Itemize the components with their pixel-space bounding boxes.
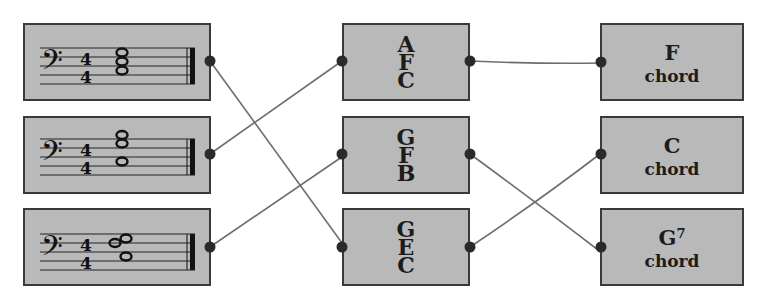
note-letter: B xyxy=(397,164,416,182)
connector-dot-staff-2[interactable] xyxy=(205,149,216,160)
notes-box-gfb[interactable]: G F B xyxy=(342,116,470,194)
connector-dot-staff-1[interactable] xyxy=(205,56,216,67)
staff-box-1[interactable]: 𝄢 4 4 xyxy=(23,23,211,101)
connector-dot-g7-chord[interactable] xyxy=(596,242,607,253)
connector-dot-gec-left[interactable] xyxy=(337,242,348,253)
wire-gec-to-c-chord xyxy=(470,154,600,247)
whole-notes xyxy=(117,49,128,75)
wire-staff2-to-afc xyxy=(210,61,342,154)
connector-dot-afc-left[interactable] xyxy=(337,56,348,67)
note-letter: C xyxy=(397,71,415,89)
whole-notes xyxy=(110,235,132,261)
connector-dot-gfb-left[interactable] xyxy=(337,149,348,160)
wire-afc-to-f-chord xyxy=(470,61,602,63)
svg-text:4: 4 xyxy=(80,158,92,178)
notes-box-gec[interactable]: G E C xyxy=(342,208,470,286)
wire-staff3-to-gfb xyxy=(210,150,352,247)
bass-clef-icon: 𝄢 xyxy=(41,229,63,269)
svg-text:4: 4 xyxy=(80,49,92,69)
svg-text:4: 4 xyxy=(80,235,92,255)
svg-text:4: 4 xyxy=(80,140,92,160)
chord-name: C xyxy=(664,130,681,158)
chord-label: chord xyxy=(645,65,700,87)
bass-clef-icon: 𝄢 xyxy=(41,43,63,83)
chord-name: G7 xyxy=(659,222,686,250)
bass-staff-afc: 𝄢 4 4 xyxy=(25,25,211,101)
connector-dot-gfb-right[interactable] xyxy=(465,149,476,160)
chord-box-f[interactable]: F chord xyxy=(600,23,744,101)
connector-dot-gec-right[interactable] xyxy=(465,242,476,253)
svg-text:4: 4 xyxy=(80,67,92,87)
wire-staff1-to-gec xyxy=(210,61,350,254)
bass-staff-gfb: 𝄢 4 4 xyxy=(25,118,211,194)
bass-clef-icon: 𝄢 xyxy=(41,134,63,174)
note-letter: C xyxy=(397,256,415,274)
connector-dot-f-chord[interactable] xyxy=(596,57,607,68)
chord-label: chord xyxy=(645,250,700,272)
chord-box-c[interactable]: C chord xyxy=(600,116,744,194)
staff-box-3[interactable]: 𝄢 4 4 xyxy=(23,208,211,286)
bass-staff-gec: 𝄢 4 4 xyxy=(25,210,211,286)
notes-box-afc[interactable]: A F C xyxy=(342,23,470,101)
svg-text:4: 4 xyxy=(80,253,92,273)
staff-box-2[interactable]: 𝄢 4 4 xyxy=(23,116,211,194)
chord-name: F xyxy=(665,37,680,65)
chord-box-g7[interactable]: G7 chord xyxy=(600,208,744,286)
connector-dot-afc-right[interactable] xyxy=(465,56,476,67)
connector-dot-staff-3[interactable] xyxy=(205,242,216,253)
connector-dot-c-chord[interactable] xyxy=(596,149,607,160)
wire-gfb-to-g7-chord xyxy=(470,154,602,253)
chord-label: chord xyxy=(645,158,700,180)
